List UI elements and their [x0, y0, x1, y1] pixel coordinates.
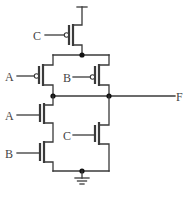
pmos-transistor-a [17, 55, 53, 96]
cmos-schematic: C A B F A B [0, 0, 185, 199]
nmos-transistor-b [17, 141, 53, 171]
node-dot [79, 52, 84, 57]
output-label-f: F [176, 90, 183, 104]
pmos-transistor-b [73, 55, 109, 96]
input-label-a-nmos: A [5, 109, 14, 123]
input-label-b-pmos: B [63, 71, 71, 85]
input-label-c-nmos: C [63, 129, 71, 143]
nmos-transistor-a [17, 96, 53, 142]
nmos-transistor-c [73, 96, 109, 171]
input-label-c-top: C [33, 29, 41, 43]
pmos-transistor-c [45, 7, 82, 55]
ground-icon [75, 171, 89, 184]
input-label-a-pmos: A [5, 70, 14, 84]
input-label-b-nmos: B [5, 147, 13, 161]
